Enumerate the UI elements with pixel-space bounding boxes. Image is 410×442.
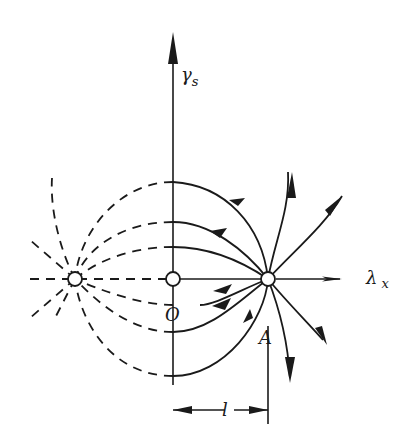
vertical-axis-label: γs [181, 64, 199, 89]
phase-diagram: γs λx [0, 0, 410, 442]
point-a-label: A [257, 327, 272, 348]
image-point [68, 272, 82, 286]
horizontal-axis-label: λx [365, 267, 389, 291]
axis-arrow-icon [168, 32, 178, 64]
solid-field-lines [173, 172, 342, 378]
dimension-label: l [222, 399, 228, 420]
origin-label: O [165, 304, 180, 325]
dashed-field-lines [30, 178, 173, 376]
source-point-a [261, 272, 275, 286]
origin-point [166, 272, 180, 286]
